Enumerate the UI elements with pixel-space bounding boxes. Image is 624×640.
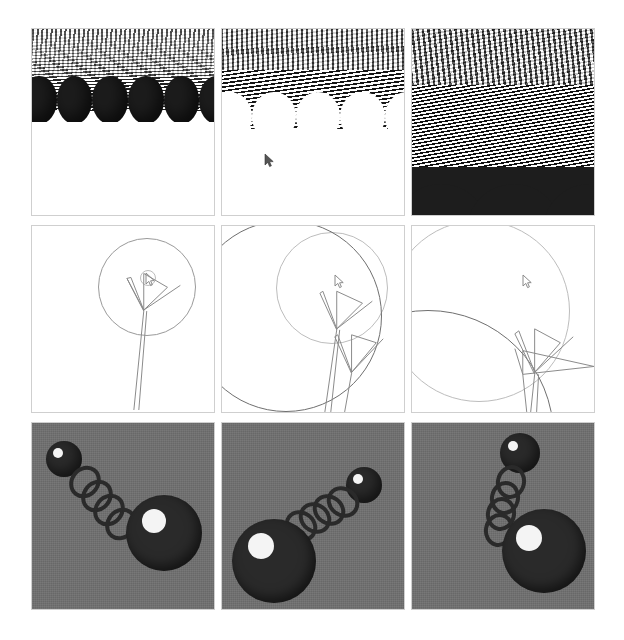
panel-grid	[31, 28, 595, 611]
stripe-band-secondary	[32, 29, 214, 77]
stripe-band-secondary	[412, 29, 594, 85]
panel-r3c3[interactable]	[411, 422, 595, 610]
large-ball	[126, 495, 202, 571]
large-ball	[502, 509, 586, 593]
panel-r1c1[interactable]	[31, 28, 215, 216]
column-base	[199, 76, 214, 124]
small-ball-highlight	[508, 441, 518, 451]
panel-r1c3-content	[412, 29, 594, 215]
stripe-band-secondary	[222, 29, 404, 70]
column-base	[164, 76, 200, 124]
large-ball-highlight	[516, 525, 542, 551]
panel-r2c3-content	[412, 226, 594, 412]
column-base	[128, 76, 164, 124]
column-base	[32, 76, 57, 124]
floor-plane	[32, 122, 214, 215]
panel-r3c2-content	[222, 423, 404, 609]
column-base	[92, 76, 128, 124]
panel-r3c1-content	[32, 423, 214, 609]
panel-r3c1[interactable]	[31, 422, 215, 610]
panel-r1c2[interactable]	[221, 28, 405, 216]
column-base-row	[32, 76, 214, 124]
panel-r2c2[interactable]	[221, 225, 405, 413]
panel-r2c1[interactable]	[31, 225, 215, 413]
floor-plane	[222, 129, 404, 215]
large-ball-highlight	[248, 533, 274, 559]
small-ball-highlight	[353, 474, 363, 484]
panel-r2c1-content	[32, 226, 214, 412]
small-ball-highlight	[53, 448, 63, 458]
wireframe-arrow	[222, 226, 404, 412]
panel-r1c3[interactable]	[411, 28, 595, 216]
column-base	[57, 76, 93, 124]
panel-r2c3[interactable]	[411, 225, 595, 413]
panel-r1c2-content	[222, 29, 404, 215]
panel-r1c1-content	[32, 29, 214, 215]
large-ball	[232, 519, 316, 603]
wireframe-arrow	[32, 226, 214, 412]
panel-r3c3-content	[412, 423, 594, 609]
wireframe-arrow	[412, 226, 594, 412]
panel-r3c2[interactable]	[221, 422, 405, 610]
panel-r2c2-content	[222, 226, 404, 412]
large-ball-highlight	[142, 509, 166, 533]
